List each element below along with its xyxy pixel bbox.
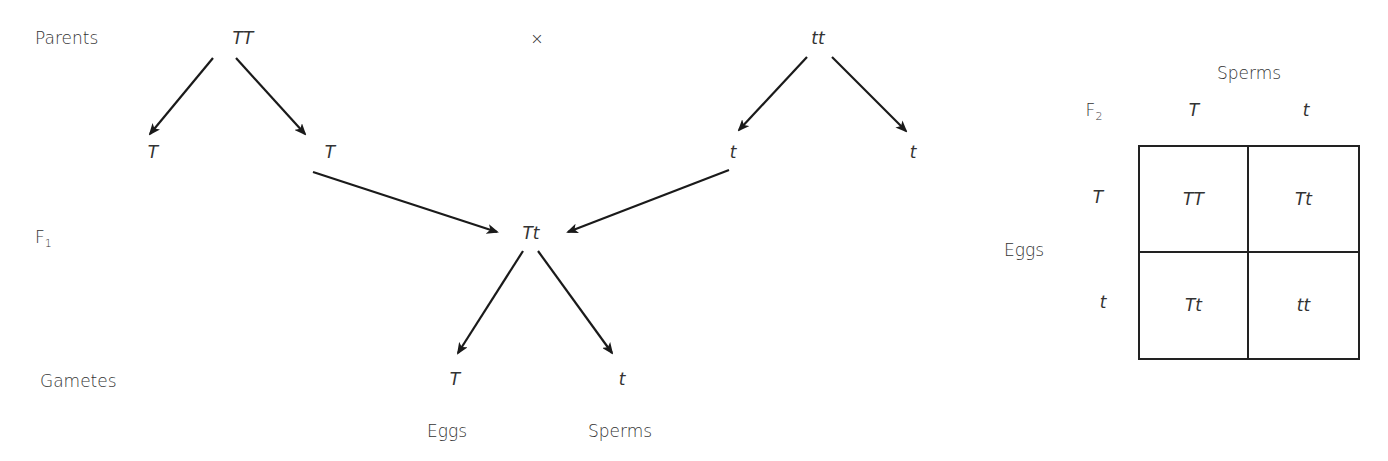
punnett-cell: tt bbox=[1249, 253, 1358, 359]
punnett-square: TT Tt Tt tt bbox=[1138, 145, 1360, 360]
punnett-title: F2 bbox=[1086, 100, 1103, 123]
cross-symbol: × bbox=[530, 29, 543, 48]
punnett-title-base: F bbox=[1086, 100, 1096, 120]
arrow-f1-to-sperm bbox=[538, 251, 612, 353]
parent2-genotype: tt bbox=[811, 28, 824, 48]
parent2-gamete-1: t bbox=[730, 142, 737, 162]
parent1-gamete-2: T bbox=[325, 142, 335, 162]
arrow-tt1-to-gamete1 bbox=[150, 58, 213, 134]
f1-label: F1 bbox=[35, 227, 52, 250]
gametes-label: Gametes bbox=[40, 371, 117, 391]
arrow-T-to-f1 bbox=[313, 172, 497, 232]
punnett-row-header: Eggs bbox=[1004, 240, 1044, 260]
parent1-genotype: TT bbox=[233, 28, 254, 48]
sperms-label: Sperms bbox=[588, 421, 652, 441]
arrow-tt1-to-gamete2 bbox=[236, 58, 305, 134]
punnett-title-sub: 2 bbox=[1095, 110, 1102, 123]
parents-label: Parents bbox=[35, 28, 98, 48]
arrow-tt2-to-gamete1 bbox=[739, 57, 807, 130]
f1-gamete-sperm: t bbox=[619, 369, 626, 389]
punnett-cell: Tt bbox=[1249, 147, 1358, 253]
parent2-gamete-2: t bbox=[910, 142, 917, 162]
punnett-cell: TT bbox=[1140, 147, 1249, 253]
f1-label-base: F bbox=[35, 227, 45, 247]
punnett-col-2: t bbox=[1303, 100, 1310, 120]
f1-genotype: Tt bbox=[522, 223, 539, 243]
punnett-col-1: T bbox=[1189, 100, 1199, 120]
punnett-row-2: t bbox=[1100, 292, 1107, 312]
arrow-f1-to-egg bbox=[458, 251, 523, 353]
parent1-gamete-1: T bbox=[148, 142, 158, 162]
f1-label-sub: 1 bbox=[45, 237, 52, 250]
f1-gamete-egg: T bbox=[450, 369, 460, 389]
arrow-tt2-to-gamete2 bbox=[832, 57, 906, 131]
arrow-t-to-f1 bbox=[568, 170, 729, 232]
punnett-row-1: T bbox=[1093, 187, 1103, 207]
punnett-cell: Tt bbox=[1140, 253, 1249, 359]
eggs-label: Eggs bbox=[427, 421, 467, 441]
punnett-column-header: Sperms bbox=[1217, 63, 1281, 83]
